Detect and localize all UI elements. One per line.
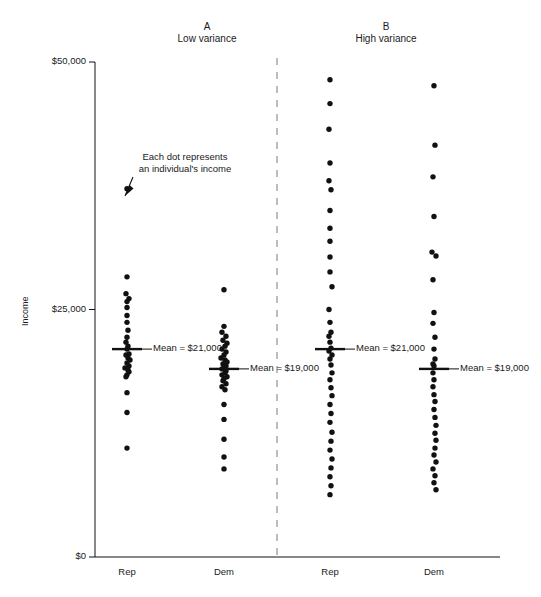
data-point (432, 335, 437, 340)
data-point (429, 249, 434, 254)
data-point (327, 420, 332, 425)
data-point (327, 492, 332, 497)
data-point (430, 174, 435, 179)
data-point (327, 254, 332, 259)
data-point (124, 335, 129, 340)
x-category-label-a-rep: Rep (87, 567, 167, 578)
data-point (430, 321, 435, 326)
data-point (124, 390, 129, 395)
dot-annotation-line2: an individual's income (139, 163, 232, 174)
data-point (124, 274, 129, 279)
data-point (430, 277, 435, 282)
data-point (124, 445, 129, 450)
data-point (327, 101, 332, 106)
data-point (327, 160, 332, 165)
y-tick-label-50000: $50,000 (14, 56, 86, 67)
panel-b-subtitle: High variance (326, 33, 446, 45)
data-point (327, 377, 332, 382)
data-point (329, 456, 334, 461)
dots-layer (122, 77, 438, 497)
data-point (221, 466, 226, 471)
data-point (327, 474, 332, 479)
data-point (431, 83, 436, 88)
data-point (124, 305, 129, 310)
data-point (432, 473, 437, 478)
data-point (327, 402, 332, 407)
data-point (124, 313, 129, 318)
plot-canvas (0, 0, 541, 597)
mean-label-b-dem: Mean = $19,000 (460, 363, 529, 374)
data-point (327, 238, 332, 243)
panel-b-title: B High variance (326, 21, 446, 44)
data-point (433, 253, 438, 258)
data-point (327, 339, 332, 344)
data-point (430, 370, 435, 375)
y-tick-label-25000: $25,000 (14, 304, 86, 315)
data-point (124, 299, 129, 304)
data-point (328, 465, 333, 470)
data-point (326, 334, 331, 339)
axes-layer (89, 62, 500, 557)
data-point (327, 320, 332, 325)
data-point (326, 307, 331, 312)
data-point (326, 178, 331, 183)
data-point (431, 392, 436, 397)
data-point (221, 402, 226, 407)
data-point (221, 436, 226, 441)
data-point (431, 452, 436, 457)
data-point (432, 445, 437, 450)
mean-label-a-rep: Mean = $21,000 (153, 343, 222, 354)
data-point (329, 393, 334, 398)
data-point (124, 320, 129, 325)
data-point (221, 287, 226, 292)
data-point (433, 423, 438, 428)
data-point (431, 310, 436, 315)
data-point (432, 399, 437, 404)
data-point (431, 377, 436, 382)
data-point (326, 127, 331, 132)
data-point (430, 466, 435, 471)
data-point (221, 454, 226, 459)
data-point (433, 437, 438, 442)
data-point (327, 356, 332, 361)
x-category-label-a-dem: Dem (184, 567, 264, 578)
dot-annotation: Each dot represents an individual's inco… (120, 151, 250, 175)
data-point (124, 410, 129, 415)
dot-annotation-line1: Each dot represents (142, 151, 227, 162)
data-point (329, 284, 334, 289)
panel-a-letter: A (147, 21, 267, 33)
mean-label-b-rep: Mean = $21,000 (356, 343, 425, 354)
data-point (431, 346, 436, 351)
data-point (327, 269, 332, 274)
panel-a-title: A Low variance (147, 21, 267, 44)
data-point (221, 324, 226, 329)
data-point (123, 374, 128, 379)
data-point (329, 430, 334, 435)
data-point (433, 459, 438, 464)
data-point (123, 291, 128, 296)
data-point (219, 330, 224, 335)
data-point (432, 356, 437, 361)
mean-label-a-dem: Mean = $19,000 (250, 363, 319, 374)
data-point (328, 438, 333, 443)
x-category-label-b-dem: Dem (394, 567, 474, 578)
data-point (221, 417, 226, 422)
panel-b-letter: B (326, 21, 446, 33)
data-point (432, 431, 437, 436)
data-point (431, 214, 436, 219)
data-point (432, 142, 437, 147)
data-point (430, 384, 435, 389)
data-point (328, 483, 333, 488)
data-point (327, 226, 332, 231)
income-dot-plot-figure: A Low variance B High variance Income $5… (0, 0, 541, 597)
data-point (431, 480, 436, 485)
data-point (433, 487, 438, 492)
data-point (222, 387, 227, 392)
data-point (328, 411, 333, 416)
x-category-label-b-rep: Rep (290, 567, 370, 578)
y-tick-label-0: $0 (14, 551, 86, 562)
data-point (328, 362, 333, 367)
data-point (328, 187, 333, 192)
panel-a-subtitle: Low variance (147, 33, 267, 45)
data-point (329, 370, 334, 375)
